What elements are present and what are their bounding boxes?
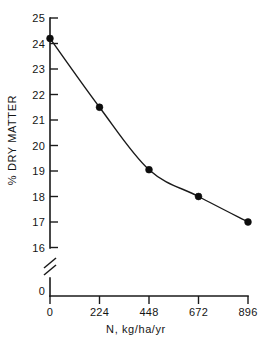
x-axis-title: N, kg/ha/yr [106, 323, 166, 335]
x-tick-label-448: 448 [140, 306, 159, 318]
x-tick-label-224: 224 [90, 306, 109, 318]
y-tick-label-18: 18 [32, 191, 45, 203]
y-tick-label-22: 22 [32, 89, 45, 101]
data-point-896 [245, 219, 252, 226]
y-axis-title: % DRY MATTER [6, 95, 18, 185]
y-tick-label-23: 23 [32, 63, 45, 75]
data-point-0 [47, 35, 54, 42]
x-tick-label-672: 672 [189, 306, 208, 318]
data-point-672 [195, 193, 202, 200]
y-tick-label-24: 24 [32, 38, 45, 50]
chart-figure: 25 24 23 22 21 20 19 18 17 16 0 0 224 44… [0, 0, 267, 337]
y-tick-label-25: 25 [32, 12, 45, 24]
y-tick-label-16: 16 [32, 242, 45, 254]
y-tick-label-17: 17 [32, 216, 45, 228]
x-tick-label-896: 896 [239, 306, 258, 318]
y-tick-label-21: 21 [32, 114, 45, 126]
y-tick-label-0: 0 [39, 285, 45, 297]
data-series-line [50, 38, 248, 222]
y-tick-label-20: 20 [32, 140, 45, 152]
line-chart: 25 24 23 22 21 20 19 18 17 16 0 0 224 44… [0, 0, 267, 337]
data-point-448 [146, 166, 153, 173]
x-tick-label-0: 0 [47, 306, 53, 318]
y-tick-label-19: 19 [32, 165, 45, 177]
axis-break-icon [44, 258, 56, 275]
data-point-224 [96, 104, 103, 111]
data-marker-group [47, 35, 252, 225]
